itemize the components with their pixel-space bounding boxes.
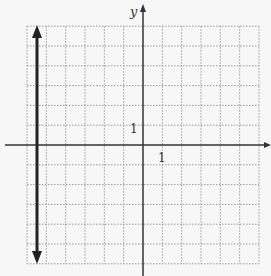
y-axis-arrow-icon (140, 4, 146, 12)
y-axis-label: y (129, 4, 138, 19)
x-axis-arrow-icon (264, 142, 271, 148)
line-arrow-down-icon (32, 251, 42, 264)
y-tick-label: 1 (130, 122, 138, 136)
coordinate-plane: y 1 1 (0, 0, 271, 276)
x-tick-label: 1 (158, 151, 166, 165)
line-arrow-up-icon (32, 25, 42, 38)
